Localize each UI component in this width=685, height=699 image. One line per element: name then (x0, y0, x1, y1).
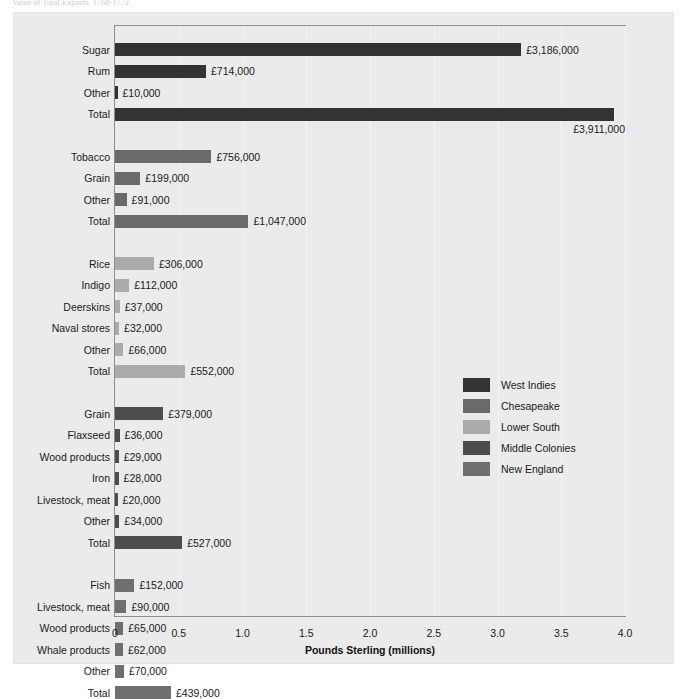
bar-row-label: Naval stores (52, 323, 110, 334)
x-tick-label: 2.5 (426, 627, 441, 639)
bar-row: Total£527,000 (115, 536, 625, 549)
bar-row: Tobacco£756,000 (115, 150, 625, 163)
bar-value-label: £112,000 (129, 280, 177, 291)
bar-row-label: Other (84, 516, 110, 527)
bar-value-label: £306,000 (154, 258, 203, 269)
bar-row-label: Indigo (81, 280, 110, 291)
bar-value-label: £70,000 (124, 666, 167, 677)
legend-item: Lower South (463, 416, 623, 437)
bar-row-label: Grain (84, 173, 110, 184)
bar-value-label: £552,000 (185, 366, 234, 377)
legend-swatch (463, 378, 490, 392)
x-tick-label: 1.0 (235, 627, 250, 639)
legend-item: Middle Colonies (463, 437, 623, 458)
bar-row-label: Total (88, 366, 110, 377)
bar-row-label: Wood products (40, 623, 110, 634)
bar-value-label: £29,000 (119, 451, 162, 462)
bar-value-label: £152,000 (134, 580, 183, 591)
bar (115, 365, 185, 378)
bar (115, 43, 521, 56)
bar (115, 343, 123, 356)
bar-value-label: £90,000 (126, 601, 169, 612)
bar-value-label: £37,000 (120, 301, 163, 312)
bar-row: Other£34,000 (115, 515, 625, 528)
bar-row-label: Rum (88, 66, 110, 77)
bar-value-label: £379,000 (163, 408, 212, 419)
bar-row-label: Other (84, 87, 110, 98)
legend-item: Chesapeake (463, 395, 623, 416)
bar-row-label: Total (88, 537, 110, 548)
bar-row-label: Whale products (37, 644, 110, 655)
x-tick-label: 0.5 (171, 627, 186, 639)
bar-row: Total£1,047,000 (115, 215, 625, 228)
bar (115, 215, 248, 228)
legend-label: Lower South (501, 421, 560, 433)
bar-row: Sugar£3,186,000 (115, 43, 625, 56)
legend-swatch (463, 399, 490, 413)
legend-label: Middle Colonies (501, 442, 576, 454)
bar-row-label: Grain (84, 408, 110, 419)
bar-value-label: £28,000 (119, 473, 162, 484)
bar-value-label: £3,911,000 (573, 124, 625, 135)
bar-value-label: £36,000 (120, 430, 163, 441)
bar-row: Fish£152,000 (115, 579, 625, 592)
bar (115, 193, 127, 206)
bar-value-label: £10,000 (118, 87, 161, 98)
bar-row-label: Rice (89, 258, 110, 269)
bar-row-label: Total (88, 216, 110, 227)
x-tick-label: 3.0 (490, 627, 505, 639)
bar-row-label: Livestock, meat (37, 601, 110, 612)
bar-value-label: £34,000 (119, 516, 162, 527)
bar-row: Other£66,000 (115, 343, 625, 356)
x-axis: 00.51.01.52.02.53.03.54.0 Pounds Sterlin… (114, 617, 626, 661)
legend-item: West Indies (463, 374, 623, 395)
bar (115, 600, 126, 613)
plot-area: Sugar£3,186,000Rum£714,000Other£10,000To… (114, 25, 626, 617)
bar-row: Deerskins£37,000 (115, 300, 625, 313)
legend-swatch (463, 420, 490, 434)
bar-row: Total£439,000 (115, 686, 625, 699)
bar-value-label: £527,000 (182, 537, 231, 548)
chart-legend: West IndiesChesapeakeLower SouthMiddle C… (463, 374, 623, 479)
legend-label: New England (501, 463, 563, 475)
bar-row: Other£70,000 (115, 665, 625, 678)
bar-row-label: Sugar (82, 44, 110, 55)
bar-row: Rice£306,000 (115, 257, 625, 270)
bar (115, 172, 140, 185)
x-tick-label: 1.5 (299, 627, 314, 639)
x-tick-label: 2.0 (363, 627, 378, 639)
bar-row: Other£10,000 (115, 86, 625, 99)
bar-value-label: £199,000 (140, 173, 189, 184)
bar (115, 407, 163, 420)
bar-row: Other£91,000 (115, 193, 625, 206)
legend-swatch (463, 441, 490, 455)
gridline (625, 26, 626, 616)
bar-row: Naval stores£32,000 (115, 322, 625, 335)
bar (115, 279, 129, 292)
bar-row-label: Total (88, 109, 110, 120)
legend-label: Chesapeake (501, 400, 560, 412)
bar-row: Total£3,911,000 (115, 108, 625, 121)
bar-row-label: Wood products (40, 451, 110, 462)
legend-item: New England (463, 458, 623, 479)
bar-row: Indigo£112,000 (115, 279, 625, 292)
x-axis-title: Pounds Sterling (millions) (114, 644, 626, 656)
bar-row-label: Iron (92, 473, 110, 484)
figure-caption: Value of Total Exports, 1768-1772 (12, 0, 129, 7)
x-tick-label: 0 (112, 627, 118, 639)
bar-value-label: £91,000 (127, 194, 170, 205)
bar-row: Livestock, meat£20,000 (115, 493, 625, 506)
bar-value-label: £32,000 (119, 323, 162, 334)
bar-value-label: £439,000 (171, 687, 220, 698)
bar-row-label: Other (84, 344, 110, 355)
bar-row-label: Tobacco (71, 151, 110, 162)
bar-row: Rum£714,000 (115, 65, 625, 78)
bar-value-label: £20,000 (118, 494, 161, 505)
bar-value-label: £3,186,000 (521, 44, 579, 55)
bar-row-label: Fish (90, 580, 110, 591)
bar (115, 257, 154, 270)
bar-row-label: Other (84, 194, 110, 205)
x-tick-label: 4.0 (618, 627, 633, 639)
bar (115, 65, 206, 78)
legend-label: West Indies (501, 379, 556, 391)
